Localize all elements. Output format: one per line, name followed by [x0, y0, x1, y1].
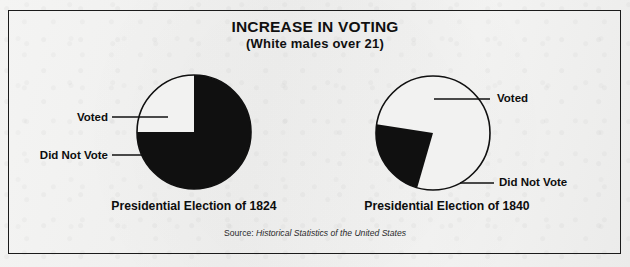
source-note: Source: Historical Statistics of the Uni… [0, 228, 630, 238]
source-prefix: Source: [224, 228, 254, 238]
caption-1840: Presidential Election of 1840 [332, 199, 562, 213]
caption-1824: Presidential Election of 1824 [94, 199, 294, 213]
label-did-not-vote-1840: Did Not Vote [499, 176, 567, 188]
figure-stage: INCREASE IN VOTING (White males over 21)… [0, 0, 630, 267]
label-voted-1840: Voted [497, 92, 528, 104]
label-voted-1824: Voted [20, 111, 108, 123]
source-publication: Historical Statistics of the United Stat… [256, 228, 406, 238]
label-did-not-vote-1824: Did Not Vote [8, 149, 108, 161]
leader-lines-1824 [110, 108, 190, 168]
page-title: INCREASE IN VOTING [0, 18, 630, 36]
page-subtitle: (White males over 21) [0, 36, 630, 51]
